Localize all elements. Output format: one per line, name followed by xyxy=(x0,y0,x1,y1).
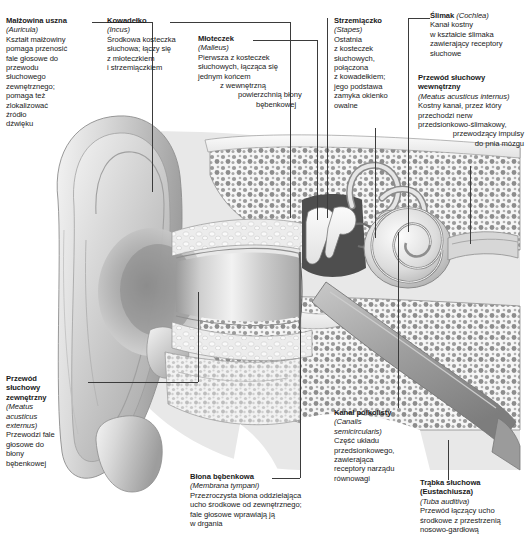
callout-meatus-internus-line-1: przechodzi nerw xyxy=(418,111,524,120)
callout-canalis-semicircularis-line-0: Część układu xyxy=(334,436,424,445)
callout-incus: Kowadełko (Incus) Środkowa kosteczka słu… xyxy=(107,16,203,72)
callout-canalis-semicircularis-line-4: równowagi xyxy=(334,474,424,483)
callout-incus-latin: (Incus) xyxy=(107,25,203,34)
callout-auricula-line-8: źródło xyxy=(6,110,92,119)
callout-stapes-line-0: Ostatnia xyxy=(334,35,414,44)
callout-incus-line-3: i strzemiączkiem xyxy=(107,63,203,72)
callout-malleus-line-4: powierzchnią błony xyxy=(198,90,320,99)
callout-auricula-line-5: zewnętrznego; xyxy=(6,82,92,91)
callout-malleus-latin: (Malleus) xyxy=(198,43,320,52)
callout-meatus-externus: Przewód słuchowy zewnętrzny (Meatus acus… xyxy=(6,374,86,468)
callout-meatus-externus-title-2: słuchowy xyxy=(6,383,86,392)
callout-incus-line-0: Środkowa kosteczka xyxy=(107,35,203,44)
callout-membrana-tympani-line-1: ucho środkowe od zewnętrznego; xyxy=(190,500,340,509)
callout-meatus-internus-line-4: do pnia mózgu xyxy=(418,139,524,148)
callout-auricula-line-9: dźwięku xyxy=(6,119,92,128)
callout-meatus-externus-latin-3: externus) xyxy=(6,421,86,430)
callout-canalis-semicircularis-line-1: przedsionkowego, xyxy=(334,446,424,455)
callout-auricula-line-2: fale głosowe do xyxy=(6,54,92,63)
callout-canalis-semicircularis-title: Kanał półkolisty xyxy=(334,408,424,417)
callout-stapes-title: Strzemiączko xyxy=(334,16,414,25)
callout-membrana-tympani-latin: (Membrana tympani) xyxy=(190,481,340,490)
callout-meatus-externus-line-2: błony xyxy=(6,449,86,458)
callout-stapes-line-2: słuchowych, xyxy=(334,54,414,63)
callout-auricula-line-6: pomaga też xyxy=(6,91,92,100)
callout-meatus-internus-title-2: wewnętrzny xyxy=(418,82,524,91)
callout-auricula-line-7: zlokalizować xyxy=(6,101,92,110)
leader-meatus-externus-v xyxy=(198,292,199,382)
callout-tuba-auditiva-line-0: Przewód łączący ucho xyxy=(420,506,524,515)
callout-tuba-auditiva-line-2: nosowo-gardłową xyxy=(420,525,524,534)
callout-cochlea-line-0: Kanał kostny xyxy=(430,20,522,29)
callout-meatus-internus-title-1: Przewód słuchowy xyxy=(418,73,524,82)
callout-meatus-internus: Przewód słuchowy wewnętrzny (Meatus acus… xyxy=(418,73,524,148)
callout-meatus-externus-latin-2: acusticus xyxy=(6,412,86,421)
callout-stapes-line-1: z kosteczek xyxy=(334,44,414,53)
callout-membrana-tympani-line-2: fale głosowe wprawiają ją xyxy=(190,510,340,519)
callout-malleus-line-3: z wewnętrzną xyxy=(198,81,320,90)
callout-malleus-line-1: słuchowych, łącząca się xyxy=(198,62,320,71)
leader-semicircularis-v xyxy=(398,232,399,408)
callout-membrana-tympani-line-0: Przezroczysta błona oddzielająca xyxy=(190,491,340,500)
callout-membrana-tympani-line-3: w drgania xyxy=(190,519,340,528)
callout-malleus-title: Młoteczek xyxy=(198,34,320,43)
callout-stapes-line-4: z kowadełkiem; xyxy=(334,72,414,81)
callout-auricula-line-1: pomaga przenosić xyxy=(6,44,92,53)
callout-auricula: Małżowina uszna (Auricula) Kształt małżo… xyxy=(6,16,92,129)
callout-auricula-latin: (Auricula) xyxy=(6,25,92,34)
callout-stapes-line-3: połączona xyxy=(334,63,414,72)
callout-stapes-line-6: zamyka okienko xyxy=(334,91,414,100)
callout-meatus-internus-latin: (Meatus acusticus internus) xyxy=(418,92,524,101)
callout-malleus-line-0: Pierwsza z kosteczek xyxy=(198,53,320,62)
leader-tuba-v xyxy=(448,440,449,480)
callout-membrana-tympani-title: Błona bębenkowa xyxy=(190,472,340,481)
leader-meatus-externus-h xyxy=(88,382,198,383)
callout-canalis-semicircularis: Kanał półkolisty (Canalis semicircularis… xyxy=(334,408,424,483)
callout-auricula-title: Małżowina uszna xyxy=(6,16,92,25)
callout-cochlea-headline: Ślimak (Cochlea) xyxy=(430,11,489,20)
callout-incus-title: Kowadełko xyxy=(107,16,203,25)
callout-malleus-line-2: jednym końcem xyxy=(198,72,320,81)
callout-cochlea-latin: (Cochlea) xyxy=(456,11,488,20)
callout-tuba-auditiva: Trąbka słuchowa (Eustachiusza) (Tuba aud… xyxy=(420,478,524,534)
callout-cochlea-line-2: zawierający receptory xyxy=(430,39,522,48)
leader-tympani-v xyxy=(300,330,301,478)
callout-tuba-auditiva-title-2: (Eustachiusza) xyxy=(420,487,524,496)
callout-incus-line-2: z młoteczkiem xyxy=(107,54,203,63)
callout-auricula-line-0: Kształt małżowiny xyxy=(6,35,92,44)
callout-auricula-line-3: przewodu xyxy=(6,63,92,72)
callout-malleus: Młoteczek (Malleus) Pierwsza z kosteczek… xyxy=(198,34,320,109)
callout-incus-line-1: słuchowa; łączy się xyxy=(107,44,203,53)
callout-meatus-internus-line-0: Kostny kanał, przez który xyxy=(418,101,524,110)
callout-stapes-line-7: owalne xyxy=(334,101,414,110)
callout-cochlea-title: Ślimak xyxy=(430,11,454,20)
callout-meatus-internus-line-2: przedsionkowo-ślimakowy, xyxy=(418,120,524,129)
callout-meatus-externus-line-1: głosowe do xyxy=(6,440,86,449)
callout-meatus-externus-line-3: bębenkowej xyxy=(6,459,86,468)
callout-tuba-auditiva-line-1: środkowe z przestrzenią xyxy=(420,516,524,525)
callout-meatus-externus-title-3: zewnętrzny xyxy=(6,393,86,402)
callout-cochlea-line-3: słuchowe xyxy=(430,49,522,58)
callout-meatus-internus-line-3: przewodzący impulsy xyxy=(418,129,524,138)
callout-canalis-semicircularis-latin-1: (Canalis xyxy=(334,417,424,426)
callout-meatus-externus-latin-1: (Meatus xyxy=(6,402,86,411)
ear-anatomy-diagram: Małżowina uszna (Auricula) Kształt małżo… xyxy=(0,0,525,536)
callout-cochlea: Ślimak (Cochlea) Kanał kostny w kształci… xyxy=(430,11,522,58)
callout-tuba-auditiva-title-1: Trąbka słuchowa xyxy=(420,478,524,487)
callout-tuba-auditiva-latin: (Tuba auditiva) xyxy=(420,497,524,506)
callout-auricula-line-4: słuchowego xyxy=(6,72,92,81)
callout-meatus-externus-line-0: Przewodzi fale xyxy=(6,430,86,439)
callout-canalis-semicircularis-latin-2: semicircularis) xyxy=(334,427,424,436)
callout-malleus-line-5: bębenkowej xyxy=(198,100,320,109)
callout-meatus-externus-title-1: Przewód xyxy=(6,374,86,383)
callout-cochlea-line-1: w kształcie ślimaka xyxy=(430,30,522,39)
callout-canalis-semicircularis-line-3: receptory narządu xyxy=(334,464,424,473)
callout-stapes: Strzemiączko (Stapes) Ostatnia z kostecz… xyxy=(334,16,414,110)
callout-stapes-line-5: jego podstawa xyxy=(334,82,414,91)
leader-stapes-v2 xyxy=(375,128,376,238)
callout-stapes-latin: (Stapes) xyxy=(334,25,414,34)
callout-canalis-semicircularis-line-2: zawierająca xyxy=(334,455,424,464)
callout-membrana-tympani: Błona bębenkowa (Membrana tympani) Przez… xyxy=(190,472,340,528)
leader-meatus-internus-v xyxy=(470,166,471,244)
leader-stapes-v xyxy=(327,18,328,218)
